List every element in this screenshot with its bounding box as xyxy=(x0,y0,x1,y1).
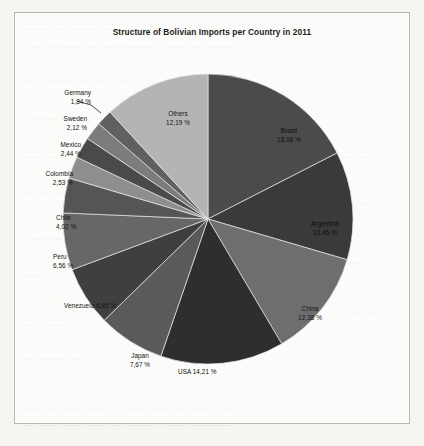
slice-label-venezuela-pct: 6,85 % xyxy=(96,302,116,309)
slice-label-china: China 12,38 % xyxy=(282,305,338,322)
slice-label-argentina: Argentina 12,45 % xyxy=(294,220,356,237)
slice-label-others-pct: 12,19 % xyxy=(151,119,205,128)
slice-label-brasil-pct: 18,06 % xyxy=(261,136,317,145)
slice-label-colombia: Colombia 2,53 % xyxy=(0,170,73,187)
slice-label-chile: Chile 4,02 % xyxy=(56,214,76,231)
slice-label-sweden: Sweden 2,12 % xyxy=(7,115,87,132)
slice-label-venezuela: Venezuela 6,85 % xyxy=(64,302,116,311)
slice-label-japan-name: Japan xyxy=(115,352,165,361)
slice-label-argentina-name: Argentina xyxy=(294,220,356,229)
scanned-page: _______ ____ ______ ___ _____ ______ ___… xyxy=(0,0,424,446)
slice-label-others: Others 12,19 % xyxy=(151,110,205,127)
slice-label-usa: USA 14,21 % xyxy=(178,368,217,377)
slice-label-mexico: Mexico 2,44 % xyxy=(1,141,81,158)
slice-label-germany: Germany 1,84 % xyxy=(11,89,91,106)
slice-label-germany-pct: 1,84 % xyxy=(11,98,91,107)
slice-label-peru-name: Peru xyxy=(53,253,73,262)
slice-label-others-name: Others xyxy=(151,110,205,119)
slice-label-usa-name: USA xyxy=(178,368,191,375)
slice-label-sweden-pct: 2,12 % xyxy=(7,124,87,133)
slice-label-japan-pct: 7,67 % xyxy=(115,361,165,370)
slice-label-brasil: Brasil 18,06 % xyxy=(261,127,317,144)
slice-label-colombia-name: Colombia xyxy=(0,170,73,179)
slice-label-brasil-name: Brasil xyxy=(261,127,317,136)
slice-label-usa-pct: 14,21 % xyxy=(193,368,217,375)
slice-label-germany-name: Germany xyxy=(11,89,91,98)
slice-label-chile-pct: 4,02 % xyxy=(56,223,76,232)
chart-frame: Structure of Bolivian Imports per Countr… xyxy=(14,12,410,424)
slice-label-china-pct: 12,38 % xyxy=(282,314,338,323)
slice-label-venezuela-name: Venezuela xyxy=(64,302,94,309)
slice-label-peru-pct: 6,56 % xyxy=(53,262,73,271)
slice-label-colombia-pct: 2,53 % xyxy=(0,179,73,188)
slice-label-argentina-pct: 12,45 % xyxy=(294,229,356,238)
slice-label-peru: Peru 6,56 % xyxy=(53,253,73,270)
slice-label-sweden-name: Sweden xyxy=(7,115,87,124)
slice-label-mexico-name: Mexico xyxy=(1,141,81,150)
chart-title: Structure of Bolivian Imports per Countr… xyxy=(15,27,409,37)
slice-label-china-name: China xyxy=(282,305,338,314)
slice-label-mexico-pct: 2,44 % xyxy=(1,150,81,159)
slice-label-chile-name: Chile xyxy=(56,214,76,223)
slice-label-japan: Japan 7,67 % xyxy=(115,352,165,369)
